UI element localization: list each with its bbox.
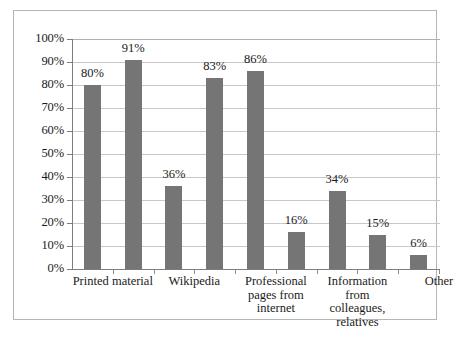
y-tick-label-100: 100% <box>18 32 64 44</box>
bar-value-label: 15% <box>348 217 408 230</box>
category-label-line: relatives <box>309 316 405 330</box>
bar <box>84 85 101 269</box>
plot-area <box>72 39 439 269</box>
y-tick-label-80: 80% <box>18 78 64 90</box>
y-axis-tick-labels: 0%10%20%30%40%50%60%70%80%90%100% <box>14 11 64 338</box>
bar <box>206 78 223 269</box>
bar <box>329 191 346 269</box>
y-tick-label-50: 50% <box>18 147 64 159</box>
x-tick <box>235 270 236 274</box>
x-tick <box>154 270 155 274</box>
bar <box>125 60 142 269</box>
x-tick <box>317 270 318 274</box>
bar <box>247 71 264 269</box>
bar <box>410 255 427 269</box>
bar-value-label: 16% <box>266 214 326 227</box>
category-label-line: from <box>309 289 405 303</box>
y-tick-label-40: 40% <box>18 170 64 182</box>
bar-value-label: 86% <box>226 53 286 66</box>
bar-value-label: 80% <box>62 67 122 80</box>
y-tick-label-20: 20% <box>18 216 64 228</box>
bar <box>369 235 386 270</box>
category-axis-line <box>72 269 440 270</box>
bar-value-label: 6% <box>389 237 449 250</box>
y-tick-label-30: 30% <box>18 193 64 205</box>
chart-frame: 0%10%20%30%40%50%60%70%80%90%100% 80%91%… <box>13 10 437 320</box>
bar-value-label: 91% <box>103 42 163 55</box>
x-tick <box>398 270 399 274</box>
bar-value-label: 36% <box>144 168 204 181</box>
bar-value-label: 34% <box>307 173 367 186</box>
bar <box>165 186 182 269</box>
y-tick-label-10: 10% <box>18 239 64 251</box>
y-tick-label-70: 70% <box>18 101 64 113</box>
y-tick-label-90: 90% <box>18 55 64 67</box>
y-tick-label-60: 60% <box>18 124 64 136</box>
category-label-line: colleagues, <box>309 302 405 316</box>
category-label: Other <box>391 275 458 289</box>
bar <box>288 232 305 269</box>
y-tick-label-0: 0% <box>18 262 64 274</box>
category-label-line: Other <box>391 275 458 289</box>
